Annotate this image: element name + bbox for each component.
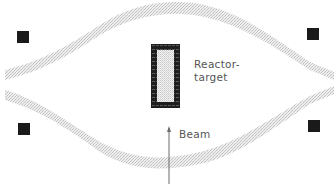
beam-label: Beam [179,128,211,140]
reactor-target-label-line1: Reactor- [194,58,240,70]
magnet-upper-right [307,28,319,40]
reactor-target [151,44,180,108]
beam-arrow-icon [167,126,171,184]
reactor-target-label-line2: target [194,71,228,83]
magnet-upper-left [17,31,29,43]
reactor-target-diagram [0,0,334,192]
magnet-lower-left [18,123,30,135]
magnet-lower-right [308,120,320,132]
